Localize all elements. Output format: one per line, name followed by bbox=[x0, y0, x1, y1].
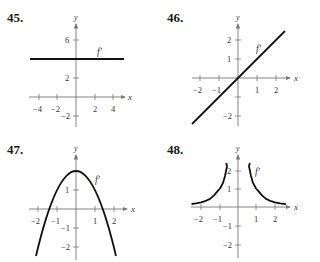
ytick-label: 1 bbox=[227, 54, 231, 64]
x-axis-label: x bbox=[293, 73, 298, 83]
ytick-label: −2 bbox=[61, 242, 70, 252]
fprime-label: f′ bbox=[97, 47, 103, 57]
x-axis-label: x bbox=[130, 204, 135, 214]
ytick-label: −2 bbox=[223, 111, 232, 121]
ytick-label: 1 bbox=[227, 184, 231, 194]
xtick-label: −1 bbox=[51, 216, 60, 226]
graph-46: x y −2 −1 1 2 2 1 −2 f′ bbox=[192, 13, 298, 126]
ytick-label: −1 bbox=[61, 223, 70, 233]
x-axis-label: x bbox=[127, 92, 132, 102]
xtick-label: 2 bbox=[93, 104, 97, 114]
fprime-curve-left bbox=[192, 163, 228, 204]
graph-48: x y −2 −1 1 2 2 1 −1 −2 f′ bbox=[191, 144, 298, 258]
xtick-label: 2 bbox=[274, 85, 278, 95]
xtick-label: −1 bbox=[212, 85, 221, 95]
ytick-label: 1 bbox=[65, 185, 69, 195]
graph-47: x y −2 −1 1 2 1 −1 −2 f′ bbox=[29, 144, 135, 260]
fprime-label: f′ bbox=[255, 167, 261, 177]
xtick-label: 1 bbox=[93, 216, 97, 226]
y-axis-label: y bbox=[73, 13, 78, 22]
ytick-label: −2 bbox=[61, 111, 70, 121]
y-axis-label: y bbox=[235, 13, 240, 22]
y-axis-label: y bbox=[73, 144, 78, 153]
xtick-label: 1 bbox=[255, 85, 259, 95]
ytick-label: 2 bbox=[65, 73, 69, 83]
xtick-label: 1 bbox=[254, 214, 258, 224]
fprime-label: f′ bbox=[256, 44, 262, 54]
xtick-label: −1 bbox=[213, 214, 222, 224]
xtick-label: −2 bbox=[51, 104, 60, 114]
ytick-label: −1 bbox=[223, 221, 232, 231]
xtick-label: 2 bbox=[112, 216, 116, 226]
ytick-label: 2 bbox=[227, 35, 231, 45]
fprime-curve bbox=[192, 31, 285, 124]
xtick-label: −2 bbox=[31, 216, 40, 226]
graphs-canvas: x y −4 −2 2 4 6 2 −2 f′ x y bbox=[0, 0, 320, 262]
xtick-label: 2 bbox=[273, 214, 277, 224]
y-axis-label: y bbox=[235, 144, 240, 153]
xtick-label: −4 bbox=[33, 104, 43, 114]
ytick-label: −2 bbox=[223, 240, 232, 250]
xtick-label: −2 bbox=[194, 214, 203, 224]
x-axis-label: x bbox=[293, 202, 298, 212]
xtick-label: −2 bbox=[193, 85, 202, 95]
xtick-label: 4 bbox=[111, 104, 116, 114]
ytick-label: 6 bbox=[65, 35, 69, 45]
fprime-label: f′ bbox=[95, 175, 101, 185]
graph-45: x y −4 −2 2 4 6 2 −2 f′ bbox=[29, 13, 132, 127]
